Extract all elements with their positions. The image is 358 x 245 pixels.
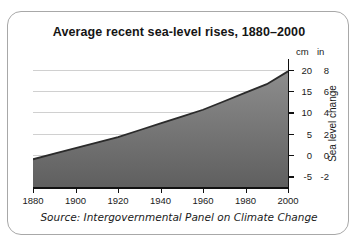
x-tick-label: 1960 bbox=[192, 195, 213, 206]
y-axis-line bbox=[288, 59, 289, 187]
unit-label-in: in bbox=[317, 46, 324, 57]
x-tick-label: 1980 bbox=[235, 195, 256, 206]
x-tick bbox=[203, 188, 204, 193]
x-tick bbox=[118, 188, 119, 193]
y-tick bbox=[288, 176, 294, 177]
x-tick bbox=[288, 188, 289, 193]
y-tick-label-cm: 5 bbox=[296, 128, 312, 139]
x-tick-label: 1920 bbox=[107, 195, 128, 206]
y-tick-label-cm: 15 bbox=[296, 86, 312, 97]
x-tick-label: 1880 bbox=[22, 195, 43, 206]
y-tick-label-cm: 20 bbox=[296, 64, 312, 75]
chart-title: Average recent sea-level rises, 1880–200… bbox=[8, 25, 350, 39]
y-axis-title: Sea level change bbox=[325, 59, 339, 187]
y-tick bbox=[288, 91, 294, 92]
y-tick-label-cm: 10 bbox=[296, 107, 312, 118]
y-tick bbox=[288, 155, 294, 156]
y-tick bbox=[288, 70, 294, 71]
plot-area: 1880190019201940196019802000 20815610452… bbox=[33, 59, 288, 187]
y-tick-label-cm: -5 bbox=[296, 171, 312, 182]
area-fill bbox=[33, 71, 288, 187]
y-axis-title-text: Sea level change bbox=[327, 85, 338, 162]
y-tick-label-cm: 0 bbox=[296, 150, 312, 161]
unit-label-cm: cm bbox=[296, 46, 309, 57]
x-tick-label: 1940 bbox=[150, 195, 171, 206]
x-tick bbox=[76, 188, 77, 193]
x-tick bbox=[161, 188, 162, 193]
chart-card: Average recent sea-level rises, 1880–200… bbox=[7, 11, 349, 235]
y-tick bbox=[288, 112, 294, 113]
x-tick bbox=[246, 188, 247, 193]
x-tick-label: 1900 bbox=[65, 195, 86, 206]
x-tick bbox=[33, 188, 34, 193]
area-series bbox=[33, 59, 288, 187]
x-tick-label: 2000 bbox=[277, 195, 298, 206]
source-note: Source: Intergovernmental Panel on Clima… bbox=[8, 211, 350, 223]
y-tick bbox=[288, 134, 294, 135]
